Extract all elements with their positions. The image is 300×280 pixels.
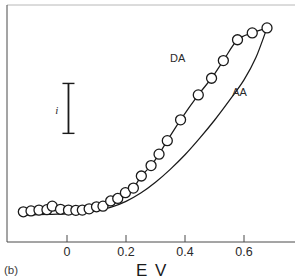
x-tick-label: 0.2: [117, 245, 134, 259]
data-point-marker: [154, 149, 164, 159]
curve-label-da: DA: [170, 52, 186, 64]
data-point-marker: [146, 161, 156, 171]
x-axis-ticks: 00.20.40.6: [64, 235, 253, 259]
data-point-marker: [162, 136, 172, 146]
data-point-marker: [247, 28, 257, 38]
curve-da: [23, 28, 267, 212]
x-tick-label: 0.6: [235, 245, 252, 259]
data-point-markers: [18, 23, 272, 217]
data-point-marker: [262, 23, 272, 33]
data-point-marker: [207, 73, 217, 83]
scale-bar-label: i: [55, 104, 58, 116]
data-point-marker: [136, 171, 146, 181]
data-point-marker: [218, 56, 228, 66]
data-point-marker: [193, 90, 203, 100]
curve-label-aa: AA: [232, 86, 247, 98]
current-scale-bar: i: [55, 83, 74, 133]
x-axis-title: E V: [136, 261, 168, 280]
x-tick-label: 0: [64, 245, 71, 259]
data-curves: [23, 28, 267, 215]
data-point-marker: [233, 35, 243, 45]
panel-caption: (b): [4, 264, 18, 276]
x-tick-label: 0.4: [176, 245, 193, 259]
curve-aa: [23, 28, 267, 215]
data-point-marker: [128, 183, 138, 193]
voltammogram-chart: 00.20.40.6 DA AA i E V (b): [0, 0, 300, 280]
figure-panel-b: 00.20.40.6 DA AA i E V (b): [0, 0, 300, 280]
data-point-marker: [176, 115, 186, 125]
